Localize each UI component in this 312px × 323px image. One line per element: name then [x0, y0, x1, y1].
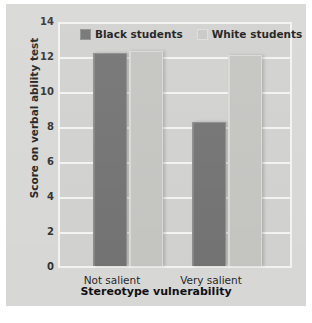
bar-white-students-very-salient[interactable]: [228, 55, 262, 266]
y-axis-title: Score on verbal ability test: [28, 18, 40, 218]
legend: Black students White students: [80, 28, 302, 40]
legend-label-black-students: Black students: [95, 28, 183, 40]
bar-black-students-very-salient[interactable]: [192, 122, 226, 266]
y-tick-0: 0: [32, 262, 54, 272]
bar-black-students-not-salient[interactable]: [93, 53, 127, 266]
legend-item-black-students[interactable]: Black students: [80, 28, 183, 40]
figure: 14 12 10 8 6 4 2 0 Score on verbal abili…: [0, 0, 312, 323]
y-tick-2: 2: [32, 227, 54, 237]
bars-layer: [60, 24, 290, 266]
chart-card: 14 12 10 8 6 4 2 0 Score on verbal abili…: [6, 4, 306, 306]
legend-label-white-students: White students: [212, 28, 303, 40]
legend-item-white-students[interactable]: White students: [197, 28, 303, 40]
dark-swatch-icon: [80, 29, 91, 40]
light-swatch-icon: [197, 29, 208, 40]
bar-white-students-not-salient[interactable]: [129, 51, 163, 266]
x-axis-title: Stereotype vulnerability: [0, 285, 312, 298]
plot-area: [58, 22, 292, 268]
